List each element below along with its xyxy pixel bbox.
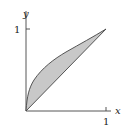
y-tick-label: 1 xyxy=(14,24,20,35)
x-tick-label: 1 xyxy=(103,116,109,127)
shaded-region xyxy=(26,29,106,111)
y-axis-label: y xyxy=(22,8,29,19)
diagram-canvas: y x 1 1 xyxy=(0,0,127,131)
x-axis-label: x xyxy=(115,105,121,116)
